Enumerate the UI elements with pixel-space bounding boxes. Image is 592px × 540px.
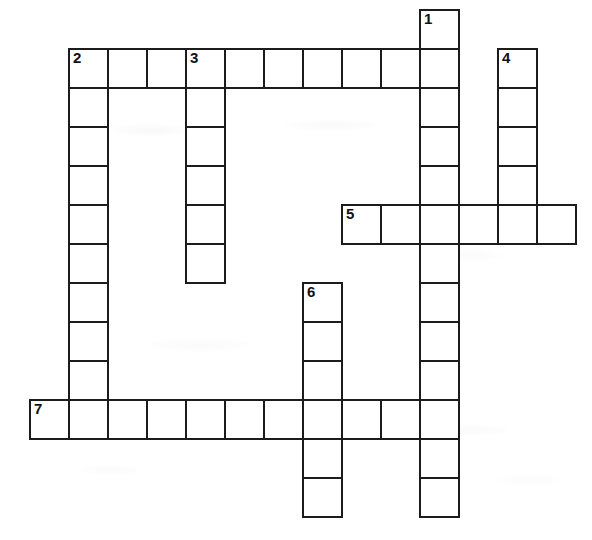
- crossword-cell[interactable]: [497, 126, 538, 167]
- crossword-cell[interactable]: [185, 87, 226, 128]
- crossword-cell[interactable]: [380, 48, 421, 89]
- crossword-cell[interactable]: [341, 48, 382, 89]
- crossword-cell[interactable]: [263, 399, 304, 440]
- cell-number-6: 6: [307, 284, 315, 301]
- cell-number-4: 4: [502, 50, 510, 67]
- crossword-cell[interactable]: [68, 165, 109, 206]
- crossword-cell[interactable]: [68, 399, 109, 440]
- crossword-cell[interactable]: [68, 243, 109, 284]
- crossword-grid: 1234567: [0, 0, 592, 540]
- crossword-cell[interactable]: [302, 438, 343, 479]
- crossword-cell[interactable]: [68, 321, 109, 362]
- crossword-cell[interactable]: [224, 48, 265, 89]
- crossword-cell[interactable]: [185, 243, 226, 284]
- crossword-cell[interactable]: 5: [341, 204, 382, 245]
- crossword-cell[interactable]: [263, 48, 304, 89]
- crossword-cell[interactable]: [146, 399, 187, 440]
- crossword-cell[interactable]: [380, 399, 421, 440]
- crossword-cell[interactable]: [419, 321, 460, 362]
- crossword-cell[interactable]: [185, 204, 226, 245]
- crossword-cell[interactable]: [419, 360, 460, 401]
- crossword-cell[interactable]: [185, 165, 226, 206]
- crossword-cell[interactable]: [419, 243, 460, 284]
- crossword-cell[interactable]: [107, 399, 148, 440]
- crossword-cell[interactable]: [302, 321, 343, 362]
- crossword-cell[interactable]: [536, 204, 577, 245]
- crossword-cell[interactable]: [497, 204, 538, 245]
- crossword-cell[interactable]: [302, 399, 343, 440]
- crossword-cell[interactable]: [185, 126, 226, 167]
- crossword-cell[interactable]: [419, 165, 460, 206]
- crossword-cell[interactable]: [302, 360, 343, 401]
- crossword-cell[interactable]: [341, 399, 382, 440]
- crossword-cell[interactable]: [497, 87, 538, 128]
- crossword-cell[interactable]: [458, 204, 499, 245]
- crossword-cell[interactable]: [419, 399, 460, 440]
- crossword-cell[interactable]: [302, 48, 343, 89]
- cell-number-5: 5: [346, 206, 354, 223]
- crossword-cell[interactable]: [146, 48, 187, 89]
- crossword-cell[interactable]: [380, 204, 421, 245]
- cell-number-1: 1: [424, 11, 432, 28]
- crossword-cell[interactable]: [419, 126, 460, 167]
- crossword-cell[interactable]: [419, 477, 460, 518]
- crossword-cell[interactable]: 6: [302, 282, 343, 323]
- crossword-cell[interactable]: [68, 126, 109, 167]
- crossword-cell[interactable]: [497, 165, 538, 206]
- crossword-cell[interactable]: [419, 87, 460, 128]
- crossword-cell[interactable]: [224, 399, 265, 440]
- crossword-cell[interactable]: [68, 87, 109, 128]
- crossword-puzzle: 1234567: [0, 0, 592, 540]
- crossword-cell[interactable]: 2: [68, 48, 109, 89]
- crossword-cell[interactable]: [419, 438, 460, 479]
- crossword-cell[interactable]: [107, 48, 148, 89]
- crossword-cell[interactable]: [68, 204, 109, 245]
- crossword-cell[interactable]: [419, 204, 460, 245]
- cell-number-7: 7: [34, 401, 42, 418]
- crossword-cell[interactable]: [302, 477, 343, 518]
- crossword-cell[interactable]: [419, 282, 460, 323]
- crossword-cell[interactable]: 3: [185, 48, 226, 89]
- crossword-cell[interactable]: 4: [497, 48, 538, 89]
- cell-number-3: 3: [190, 50, 198, 67]
- crossword-cell[interactable]: 1: [419, 9, 460, 50]
- crossword-cell[interactable]: [185, 399, 226, 440]
- cell-number-2: 2: [73, 50, 81, 67]
- crossword-cell[interactable]: [419, 48, 460, 89]
- crossword-cell[interactable]: [68, 282, 109, 323]
- crossword-cell[interactable]: [68, 360, 109, 401]
- crossword-cell[interactable]: 7: [29, 399, 70, 440]
